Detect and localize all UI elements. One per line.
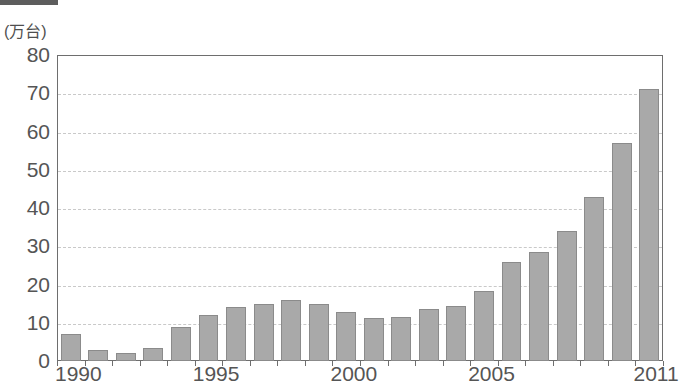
x-tick	[305, 361, 306, 366]
y-tick-label-30: 30	[0, 235, 50, 256]
bar-1999	[309, 304, 329, 361]
bar-1995	[199, 315, 219, 361]
y-tick-label-40: 40	[0, 197, 50, 218]
x-tick	[443, 361, 444, 366]
bar-2006	[502, 262, 522, 361]
x-tick	[415, 361, 416, 366]
x-tick	[112, 361, 113, 366]
bar-2011	[639, 89, 659, 361]
bar-1992	[116, 353, 136, 361]
bar-series	[57, 55, 663, 361]
y-tick-label-20: 20	[0, 274, 50, 295]
x-tick	[553, 361, 554, 366]
bar-2010	[612, 143, 632, 361]
x-tick	[250, 361, 251, 366]
bar-1996	[226, 307, 246, 361]
x-tick	[525, 361, 526, 366]
bar-1991	[88, 350, 108, 361]
bar-2008	[557, 231, 577, 361]
y-tick-label-80: 80	[0, 44, 50, 65]
x-tick-label-2005: 2005	[468, 363, 515, 384]
x-tick-label-1990: 1990	[55, 363, 102, 384]
x-tick	[140, 361, 141, 366]
bar-1990	[61, 334, 81, 361]
bar-1997	[254, 304, 274, 361]
bar-1994	[171, 327, 191, 361]
x-tick	[580, 361, 581, 366]
x-tick	[277, 361, 278, 366]
bar-1993	[143, 348, 163, 361]
bar-2005	[474, 291, 494, 361]
bar-2003	[419, 309, 439, 361]
x-tick-label-2011: 2011	[633, 363, 678, 384]
y-tick-label-0: 0	[0, 350, 50, 371]
y-tick-label-50: 50	[0, 159, 50, 180]
x-tick-label-2000: 2000	[330, 363, 377, 384]
x-tick	[388, 361, 389, 366]
y-tick-label-70: 70	[0, 82, 50, 103]
y-tick-label-60: 60	[0, 121, 50, 142]
bar-2000	[336, 312, 356, 361]
bar-2007	[529, 252, 549, 361]
bar-2004	[446, 306, 466, 361]
bar-1998	[281, 300, 301, 361]
x-tick-label-1995: 1995	[193, 363, 240, 384]
bar-2002	[391, 317, 411, 361]
bar-2009	[584, 197, 604, 361]
y-tick-label-10: 10	[0, 312, 50, 333]
bar-2001	[364, 318, 384, 361]
x-tick	[608, 361, 609, 366]
x-tick	[167, 361, 168, 366]
